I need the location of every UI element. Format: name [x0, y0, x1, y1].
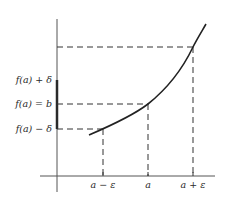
- label-a: a: [145, 179, 151, 190]
- epsilon-delta-diagram: f(a) + δ f(a) = b f(a) − δ a − ε a a + ε: [0, 0, 225, 202]
- label-f-a-equals-b: f(a) = b: [14, 98, 52, 109]
- label-a-minus-epsilon: a − ε: [91, 179, 116, 190]
- label-f-a-plus-delta: f(a) + δ: [15, 74, 53, 85]
- label-f-a-minus-delta: f(a) − δ: [15, 123, 53, 134]
- label-a-plus-epsilon: a + ε: [181, 179, 206, 190]
